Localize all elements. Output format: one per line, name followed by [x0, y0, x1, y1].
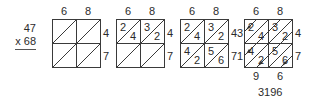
p4-cell-11-ones: 4 — [258, 31, 264, 42]
p3-cell-22-ones: 6 — [218, 55, 224, 66]
p3-cell-12-tens: 3 — [208, 22, 214, 33]
p3-cell-22-tens: 5 — [208, 46, 214, 57]
p2-right-label-2: 7 — [167, 51, 173, 62]
p3-cell-12-ones: 2 — [218, 31, 224, 42]
p3-top-label-2: 8 — [213, 6, 219, 17]
p4-bottom-label-1: 9 — [253, 71, 259, 82]
p4-right-label-2: 7 — [295, 51, 301, 62]
lattice-grid-1 — [53, 20, 101, 68]
p2-cell-12-tens: 3 — [144, 22, 150, 33]
p1-top-label-2: 8 — [85, 6, 91, 17]
p3-cell-11-tens: 2 — [184, 22, 190, 33]
p4-cell-22-ones: 6 — [282, 55, 288, 66]
p4-cell-21-tens: 4 — [248, 46, 254, 57]
p4-cell-12-tens: 3 — [272, 22, 278, 33]
p2-cell-12-ones: 2 — [154, 31, 160, 42]
p4-top-label-2: 8 — [277, 6, 283, 17]
p4-cell-11-tens: 2 — [248, 22, 254, 33]
result: 3196 — [258, 87, 282, 98]
p3-cell-11-ones: 4 — [194, 31, 200, 42]
p4-cell-22-tens: 5 — [272, 46, 278, 57]
p1-right-label-2: 7 — [103, 51, 109, 62]
p2-top-label-2: 8 — [149, 6, 155, 17]
p3-top-label-1: 6 — [189, 6, 195, 17]
p1-right-label-1: 4 — [103, 28, 109, 39]
p4-right-label-1: 4 — [295, 28, 301, 39]
p3-cell-21-tens: 4 — [184, 46, 190, 57]
p2-cell-11-tens: 2 — [120, 22, 126, 33]
p4-left-label-2: 1 — [237, 51, 243, 62]
p2-cell-11-ones: 4 — [130, 31, 136, 42]
p1-top-label-1: 6 — [61, 6, 67, 17]
p2-top-label-1: 6 — [125, 6, 131, 17]
p4-left-label-1: 3 — [237, 28, 243, 39]
p3-cell-21-ones: 2 — [194, 55, 200, 66]
p4-cell-12-ones: 2 — [282, 31, 288, 42]
p4-cell-21-ones: 2 — [258, 55, 264, 66]
p4-top-label-1: 6 — [253, 6, 259, 17]
p2-right-label-1: 4 — [167, 28, 173, 39]
p4-bottom-label-2: 6 — [277, 71, 283, 82]
